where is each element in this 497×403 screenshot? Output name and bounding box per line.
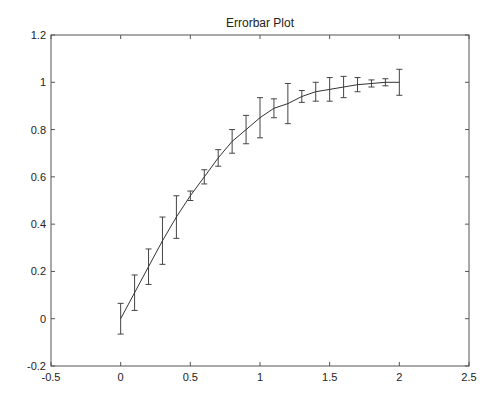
y-tick-label: 1 [40, 76, 46, 88]
error-bar [118, 303, 124, 334]
x-tick-label: -0.5 [42, 371, 61, 383]
data-line [121, 82, 400, 318]
x-tick-label: 1 [257, 371, 263, 383]
y-tick-label: 1.2 [31, 29, 46, 41]
y-tick-label: 0.6 [31, 171, 46, 183]
plot-border [51, 35, 469, 366]
x-tick-label: 0.5 [183, 371, 198, 383]
x-tick-label: 2 [396, 371, 402, 383]
y-tick-label: 0.8 [31, 124, 46, 136]
y-tick-label: 0.2 [31, 265, 46, 277]
errorbar-chart: Errorbar Plot -0.500.511.522.5 -0.200.20… [0, 0, 497, 403]
y-tick-label: 0 [40, 313, 46, 325]
y-tick-label: 0.4 [31, 218, 46, 230]
y-axis: -0.200.20.40.60.811.2 [27, 29, 469, 372]
chart-title: Errorbar Plot [226, 16, 295, 30]
x-axis: -0.500.511.522.5 [42, 35, 477, 383]
x-tick-label: 0 [118, 371, 124, 383]
x-tick-label: 1.5 [322, 371, 337, 383]
axes-frame [51, 35, 469, 366]
x-tick-label: 2.5 [461, 371, 476, 383]
y-tick-label: -0.2 [27, 360, 46, 372]
error-bars [118, 69, 403, 334]
